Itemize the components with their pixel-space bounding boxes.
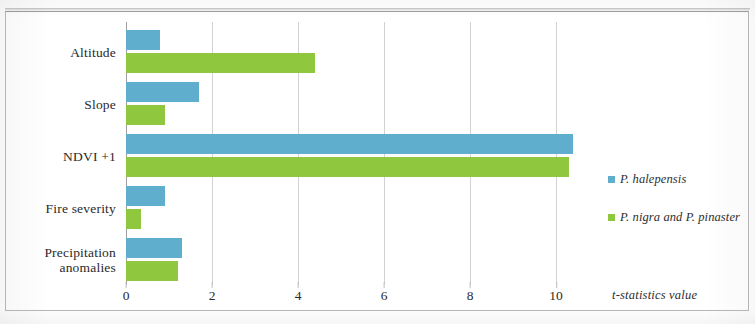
x-tick-0: 0	[123, 288, 130, 304]
legend-swatch-icon-p-halepensis	[608, 176, 615, 183]
bar-precipitation-anomalies-p-halepensis	[126, 238, 182, 258]
y-label-slope: Slope	[0, 97, 116, 112]
legend: P. halepensis P. nigra and P. pinaster	[608, 172, 753, 248]
x-tickmark-2	[212, 282, 213, 288]
x-tick-2: 2	[209, 288, 216, 304]
x-axis-title: t-statistics value	[612, 288, 697, 303]
y-label-ndvi-text: NDVI +1	[63, 149, 116, 164]
y-label-fire-severity-text: Fire severity	[46, 201, 116, 216]
figure-container: Altitude Slope NDVI +1 Fire severity Pre…	[0, 0, 755, 324]
bar-fire-severity-p-nigra-pinaster	[126, 209, 141, 229]
bar-ndvi-p-halepensis	[126, 134, 573, 154]
y-label-altitude: Altitude	[0, 45, 116, 60]
y-label-ndvi: NDVI +1	[0, 149, 116, 164]
y-label-altitude-text: Altitude	[70, 45, 116, 60]
legend-label-p-nigra-pinaster: P. nigra and P. pinaster	[620, 210, 740, 225]
x-tickmark-10	[556, 282, 557, 288]
bar-slope-p-halepensis	[126, 82, 199, 102]
y-label-slope-text: Slope	[84, 97, 116, 112]
x-tick-4-text: 4	[295, 288, 302, 303]
legend-item-p-nigra-pinaster: P. nigra and P. pinaster	[608, 210, 753, 225]
x-tickmark-6	[384, 282, 385, 288]
y-label-precipitation-line1: Precipitation	[44, 245, 116, 260]
x-tick-6-text: 6	[381, 288, 388, 303]
y-label-precipitation-line2: anomalies	[59, 260, 116, 275]
bar-fire-severity-p-halepensis	[126, 186, 165, 206]
bar-altitude-p-halepensis	[126, 30, 160, 50]
x-tickmark-4	[298, 282, 299, 288]
legend-item-p-halepensis: P. halepensis	[608, 172, 753, 187]
y-label-fire-severity: Fire severity	[0, 201, 116, 216]
x-tick-6: 6	[381, 288, 388, 304]
x-tick-8: 8	[467, 288, 474, 304]
y-label-precipitation-anomalies: Precipitation anomalies	[0, 245, 116, 275]
plot-area	[126, 22, 556, 284]
bar-ndvi-p-nigra-pinaster	[126, 157, 569, 177]
x-axis-tick-labels: 0 2 4 6 8 10	[126, 288, 556, 310]
x-tick-4: 4	[295, 288, 302, 304]
x-tickmark-0	[126, 282, 127, 288]
bar-slope-p-nigra-pinaster	[126, 105, 165, 125]
bar-altitude-p-nigra-pinaster	[126, 53, 315, 73]
x-tick-10-text: 10	[549, 288, 563, 303]
legend-swatch-icon-p-nigra-pinaster	[608, 214, 615, 221]
legend-label-p-halepensis: P. halepensis	[620, 172, 686, 187]
x-tick-2-text: 2	[209, 288, 216, 303]
x-tick-8-text: 8	[467, 288, 474, 303]
y-axis-category-labels: Altitude Slope NDVI +1 Fire severity Pre…	[0, 22, 116, 284]
x-tick-10: 10	[549, 288, 563, 304]
x-tickmark-8	[470, 282, 471, 288]
x-tick-0-text: 0	[123, 288, 130, 303]
bar-precipitation-anomalies-p-nigra-pinaster	[126, 261, 178, 281]
